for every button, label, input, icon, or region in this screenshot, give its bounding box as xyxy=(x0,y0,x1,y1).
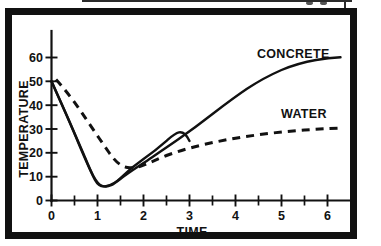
chart-plot-area: 0 10 20 30 40 50 60 0 1 xyxy=(0,0,381,246)
y-tick-label-30: 30 xyxy=(29,123,43,137)
x-tick-label-1: 1 xyxy=(94,209,101,223)
series-label-concrete: CONCRETE xyxy=(257,47,330,61)
y-tick-label-60: 60 xyxy=(29,51,43,65)
y-tick-label-40: 40 xyxy=(29,99,43,113)
series-line-concrete-rise xyxy=(52,57,341,186)
x-tick-label-5: 5 xyxy=(278,209,285,223)
x-axis-tick-labels: 0 1 2 3 4 5 6 xyxy=(48,209,331,223)
x-tick-label-3: 3 xyxy=(186,209,193,223)
x-axis-title: TIME xyxy=(176,225,207,239)
series-line-concrete xyxy=(52,81,190,186)
x-tick-label-4: 4 xyxy=(232,209,239,223)
y-axis-title: TEMPERATURE xyxy=(17,80,31,178)
figure-page: 0 10 20 30 40 50 60 0 1 xyxy=(0,0,381,246)
y-tick-label-0: 0 xyxy=(36,194,43,208)
x-tick-label-0: 0 xyxy=(48,209,55,223)
y-axis-tick-labels: 0 10 20 30 40 50 60 xyxy=(29,51,43,208)
y-tick-label-10: 10 xyxy=(29,170,43,184)
x-tick-label-6: 6 xyxy=(324,209,331,223)
x-tick-label-2: 2 xyxy=(140,209,147,223)
y-tick-label-50: 50 xyxy=(29,75,43,89)
series-label-water: WATER xyxy=(281,107,327,121)
y-tick-label-20: 20 xyxy=(29,146,43,160)
